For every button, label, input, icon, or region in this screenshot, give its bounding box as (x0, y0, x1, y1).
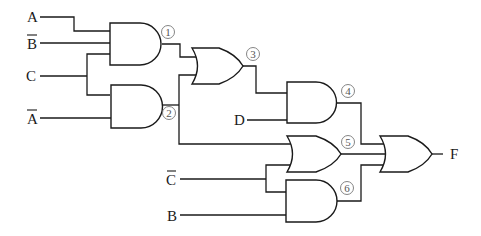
and-gate-6 (286, 180, 337, 222)
gate-number-1: 1 (162, 26, 175, 39)
svg-text:1: 1 (165, 26, 171, 38)
input-label-c-bar: C (166, 171, 176, 188)
gate-number-4: 4 (342, 85, 355, 98)
svg-text:C: C (166, 172, 176, 188)
and-gate-1 (110, 23, 161, 65)
svg-text:5: 5 (345, 136, 351, 148)
gate-number-5: 5 (342, 136, 355, 149)
input-label-a: A (27, 9, 38, 25)
or-gate-3 (192, 48, 243, 84)
input-label-b: B (167, 208, 177, 224)
input-label-a-bar: A (27, 110, 38, 127)
input-label-c: C (26, 68, 36, 84)
svg-text:2: 2 (166, 107, 172, 119)
svg-text:3: 3 (250, 48, 256, 60)
or-gate-final (380, 136, 432, 172)
output-label-f: F (450, 146, 458, 162)
gate-number-6: 6 (341, 182, 354, 195)
and-gate-4 (287, 82, 337, 123)
svg-text:4: 4 (345, 85, 351, 97)
gate-number-2: 2 (163, 107, 176, 120)
or-gate-5 (287, 136, 341, 172)
svg-text:B: B (27, 36, 37, 52)
and-gate-2 (111, 85, 163, 128)
input-label-d: D (234, 112, 245, 128)
gate-number-3: 3 (247, 48, 260, 61)
input-label-b-bar: B (27, 35, 37, 52)
svg-text:6: 6 (344, 182, 350, 194)
svg-text:A: A (27, 111, 38, 127)
logic-circuit-diagram: A B C A D C B (0, 0, 481, 236)
